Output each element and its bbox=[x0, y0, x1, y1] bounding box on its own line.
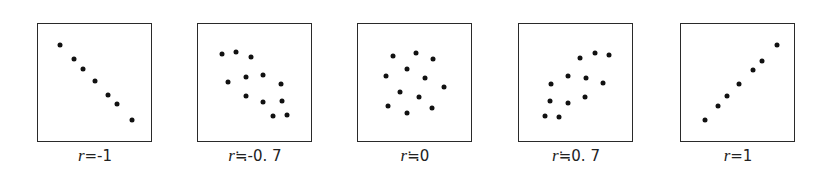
relation-symbol: ≒ bbox=[407, 147, 420, 165]
correlation-value: 0 bbox=[420, 147, 430, 165]
data-point bbox=[417, 95, 422, 100]
plot-frame bbox=[197, 23, 312, 142]
relation-symbol: ≒ bbox=[235, 147, 248, 165]
data-point bbox=[261, 100, 266, 105]
data-point bbox=[703, 118, 708, 123]
plot-frame bbox=[518, 23, 633, 142]
data-point bbox=[737, 82, 742, 87]
data-point bbox=[583, 95, 588, 100]
plot-frame bbox=[357, 23, 472, 142]
data-point bbox=[548, 99, 553, 104]
variable-r: r bbox=[228, 146, 235, 165]
relation-symbol: ≒ bbox=[559, 147, 572, 165]
data-point bbox=[431, 57, 436, 62]
data-point bbox=[442, 85, 447, 90]
correlation-label: r≒-0. 7 bbox=[197, 147, 313, 165]
data-point bbox=[423, 76, 428, 81]
data-point bbox=[234, 50, 239, 55]
data-point bbox=[405, 67, 410, 72]
data-point bbox=[226, 80, 231, 85]
correlation-value: 0. 7 bbox=[571, 147, 600, 165]
correlation-label: r≒0 bbox=[357, 147, 473, 165]
data-point bbox=[279, 82, 284, 87]
data-point bbox=[584, 76, 589, 81]
data-point bbox=[398, 90, 403, 95]
variable-r: r bbox=[552, 146, 559, 165]
correlation-label: r≒0. 7 bbox=[518, 147, 634, 165]
data-point bbox=[244, 94, 249, 99]
data-point bbox=[391, 54, 396, 59]
data-point bbox=[593, 51, 598, 56]
plot-frame bbox=[680, 23, 795, 142]
data-point bbox=[386, 104, 391, 109]
data-point bbox=[716, 104, 721, 109]
data-point bbox=[751, 68, 756, 73]
relation-symbol: = bbox=[730, 147, 743, 165]
data-point bbox=[607, 53, 612, 58]
data-point bbox=[280, 99, 285, 104]
data-point bbox=[244, 75, 249, 80]
data-point bbox=[384, 74, 389, 79]
correlation-label: r=-1 bbox=[37, 147, 153, 165]
data-point bbox=[93, 79, 98, 84]
data-point bbox=[81, 67, 86, 72]
correlation-value: -0. 7 bbox=[248, 147, 282, 165]
data-point bbox=[285, 113, 290, 118]
data-point bbox=[578, 56, 583, 61]
data-point bbox=[220, 52, 225, 57]
data-point bbox=[130, 118, 135, 123]
plot-frame bbox=[37, 23, 152, 142]
data-point bbox=[72, 57, 77, 62]
data-point bbox=[115, 102, 120, 107]
data-point bbox=[566, 101, 571, 106]
data-point bbox=[58, 43, 63, 48]
data-point bbox=[543, 114, 548, 119]
data-point bbox=[405, 111, 410, 116]
correlation-value: 1 bbox=[743, 147, 753, 165]
variable-r: r bbox=[78, 146, 85, 165]
data-point bbox=[725, 94, 730, 99]
data-point bbox=[549, 82, 554, 87]
data-point bbox=[557, 115, 562, 120]
relation-symbol: = bbox=[85, 147, 98, 165]
data-point bbox=[430, 106, 435, 111]
correlation-label: r=1 bbox=[680, 147, 796, 165]
data-point bbox=[414, 51, 419, 56]
data-point bbox=[566, 74, 571, 79]
data-point bbox=[775, 43, 780, 48]
data-point bbox=[261, 73, 266, 78]
data-point bbox=[106, 93, 111, 98]
data-point bbox=[249, 55, 254, 60]
data-point bbox=[601, 81, 606, 86]
data-point bbox=[271, 114, 276, 119]
data-point bbox=[760, 59, 765, 64]
correlation-value: -1 bbox=[97, 147, 112, 165]
